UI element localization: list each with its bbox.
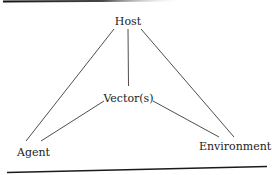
edge-vectors-environment	[153, 101, 219, 137]
node-host: Host	[115, 15, 142, 28]
edge-host-agent	[26, 29, 114, 141]
edge-vectors-agent	[41, 101, 104, 141]
edge-host-environment	[141, 29, 234, 137]
node-vectors: Vector(s)	[102, 92, 153, 105]
top-rule	[3, 1, 185, 2]
node-environment: Environment	[199, 140, 272, 153]
epidemiologic-triangle-diagram: Host Vector(s) Agent Environment	[0, 0, 272, 175]
node-agent: Agent	[16, 146, 51, 159]
edge-host-vectors	[128, 29, 129, 86]
bottom-rule	[7, 167, 267, 173]
